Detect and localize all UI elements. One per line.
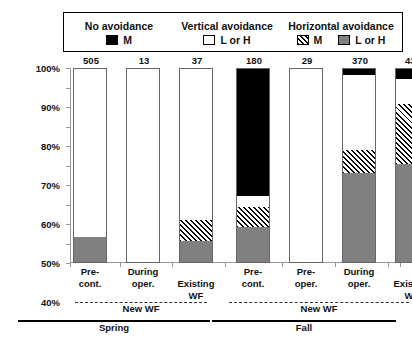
chart-figure: No avoidance Vertical avoidance Horizont… bbox=[0, 0, 412, 339]
group-label-spring: Spring bbox=[18, 322, 210, 334]
group-label-fall-new-wf: New WF bbox=[229, 303, 409, 315]
x-axis-group-brackets: New WF New WF Spring Fall bbox=[0, 0, 412, 339]
group-label-spring-new-wf: New WF bbox=[75, 303, 207, 315]
group-label-fall: Fall bbox=[212, 322, 396, 334]
